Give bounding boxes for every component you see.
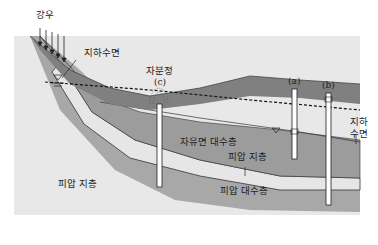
well-b-label: (b)	[322, 81, 335, 90]
water-table-right-label-2: 수면	[350, 129, 368, 139]
water-table-label: 지하수면	[84, 48, 120, 58]
rainfall-label: 강우	[36, 10, 54, 20]
groundwater-aquifer-diagram: 강우 지하수면 자분정 (c) (a) (b) 지하 수면 자유면 대수층 피압…	[0, 0, 378, 245]
confined-aquifer-label: 피압 대수층	[220, 186, 268, 196]
confining-layer-upper-label: 피압 지층	[228, 152, 267, 162]
aquifer-cross-section	[0, 0, 378, 245]
well-c-label: (c)	[154, 78, 166, 87]
well-a-label: (a)	[288, 77, 300, 86]
confining-layer-lower-label: 피압 지층	[58, 179, 97, 189]
unconfined-aquifer-label: 자유면 대수층	[180, 137, 237, 147]
flowing-well-label: 자분정	[146, 66, 173, 76]
water-table-right-label-1: 지하	[350, 117, 368, 127]
well-b	[325, 93, 332, 205]
